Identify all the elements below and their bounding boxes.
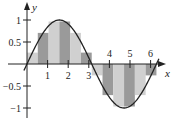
riemann-rectangle	[103, 64, 114, 95]
x-axis-label: x	[164, 67, 170, 79]
y-tick-label: −1	[10, 103, 21, 114]
riemann-rectangle	[113, 64, 124, 106]
x-tick-label: 3	[86, 70, 91, 81]
riemann-rectangle	[59, 22, 70, 64]
x-tick-label: 2	[66, 70, 71, 81]
x-tick-label: 1	[45, 70, 50, 81]
x-tick-label: 5	[128, 48, 133, 59]
riemann-rectangle	[92, 64, 103, 75]
riemann-rectangle	[27, 53, 38, 64]
y-axis-label: y	[31, 1, 37, 13]
riemann-rectangle	[124, 64, 135, 106]
riemann-rectangle	[135, 64, 146, 95]
riemann-rectangle	[49, 22, 60, 64]
y-axis-arrow-icon	[24, 2, 30, 10]
y-tick-label: −0.5	[3, 81, 21, 92]
y-tick-label: 0.5	[9, 37, 22, 48]
x-tick-label: 6	[148, 48, 153, 59]
riemann-rectangle	[70, 33, 81, 64]
riemann-rectangle	[38, 33, 49, 64]
y-tick-label: 1	[16, 15, 21, 26]
riemann-rectangle	[81, 53, 92, 64]
riemann-sum-chart: x y 123456 10.5−0.5−1	[0, 0, 177, 124]
x-tick-label: 4	[107, 48, 112, 59]
